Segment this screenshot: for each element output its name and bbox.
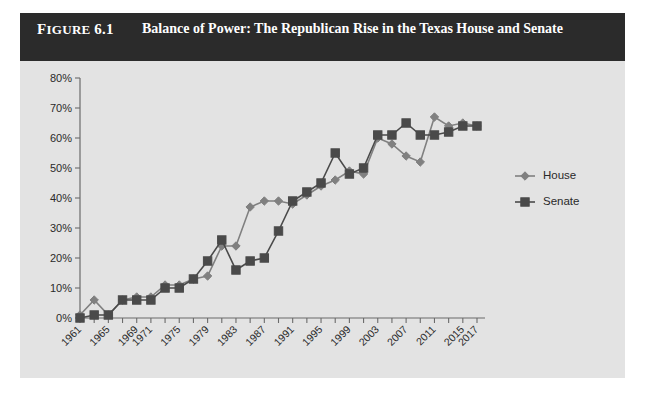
x-tick-label: 1975 bbox=[158, 323, 183, 348]
data-point-senate bbox=[459, 122, 467, 130]
data-point-house bbox=[232, 242, 240, 250]
x-tick-label: 1999 bbox=[328, 323, 353, 348]
y-tick-label: 0% bbox=[56, 312, 72, 324]
data-point-house bbox=[274, 197, 282, 205]
series-line-house bbox=[80, 117, 477, 315]
data-point-senate bbox=[76, 314, 84, 322]
data-point-house bbox=[260, 197, 268, 205]
y-tick-label: 30% bbox=[50, 222, 72, 234]
x-tick-label: 1983 bbox=[214, 323, 239, 348]
series-line-senate bbox=[80, 123, 477, 318]
data-point-senate bbox=[161, 284, 169, 292]
data-point-senate bbox=[203, 257, 211, 265]
data-point-senate bbox=[288, 197, 296, 205]
data-point-senate bbox=[189, 275, 197, 283]
data-point-senate bbox=[147, 296, 155, 304]
y-axis: 0%10%20%30%40%50%60%70%80% bbox=[50, 72, 80, 324]
data-point-house bbox=[430, 113, 438, 121]
data-point-senate bbox=[473, 122, 481, 130]
x-tick-label: 1995 bbox=[299, 323, 324, 348]
y-tick-label: 10% bbox=[50, 282, 72, 294]
data-point-senate bbox=[260, 254, 268, 262]
data-point-senate bbox=[90, 311, 98, 319]
figure-label-igure: IGURE bbox=[46, 22, 90, 37]
x-tick-label: 2003 bbox=[356, 323, 381, 348]
data-point-house bbox=[203, 272, 211, 280]
data-point-senate bbox=[274, 227, 282, 235]
figure-number: 6.1 bbox=[94, 21, 114, 37]
x-axis: 1961196519691971197519791983198719911995… bbox=[58, 318, 485, 348]
page-title: Balance of Power: The Republican Rise in… bbox=[142, 20, 612, 37]
data-point-senate bbox=[232, 266, 240, 274]
line-chart: 0%10%20%30%40%50%60%70%80% 1961196519691… bbox=[28, 68, 617, 370]
data-point-senate bbox=[388, 131, 396, 139]
legend-label-senate: Senate bbox=[543, 195, 579, 207]
data-point-senate bbox=[133, 296, 141, 304]
data-point-house bbox=[416, 158, 424, 166]
y-tick-label: 20% bbox=[50, 252, 72, 264]
data-point-senate bbox=[359, 164, 367, 172]
data-point-senate bbox=[430, 131, 438, 139]
data-point-senate bbox=[303, 188, 311, 196]
figure-title-bar: FIGURE 6.1 Balance of Power: The Republi… bbox=[20, 13, 625, 61]
data-point-senate bbox=[374, 131, 382, 139]
data-point-senate bbox=[317, 179, 325, 187]
data-point-senate bbox=[444, 128, 452, 136]
series-layer bbox=[76, 113, 481, 322]
y-tick-label: 60% bbox=[50, 132, 72, 144]
y-tick-label: 40% bbox=[50, 192, 72, 204]
x-tick-label: 1965 bbox=[87, 323, 112, 348]
data-point-senate bbox=[345, 170, 353, 178]
figure-page: { "figure": { "label_small": "F", "label… bbox=[0, 0, 651, 401]
chart-area: 0%10%20%30%40%50%60%70%80% 1961196519691… bbox=[28, 68, 617, 370]
figure-label: FIGURE 6.1 bbox=[37, 21, 114, 38]
x-tick-label: 2011 bbox=[413, 323, 438, 348]
y-tick-label: 50% bbox=[50, 162, 72, 174]
data-point-senate bbox=[331, 149, 339, 157]
data-point-senate bbox=[246, 257, 254, 265]
chart-legend: HouseSenate bbox=[515, 169, 579, 207]
data-point-senate bbox=[218, 236, 226, 244]
data-point-house bbox=[331, 176, 339, 184]
data-point-senate bbox=[416, 131, 424, 139]
data-point-senate bbox=[402, 119, 410, 127]
legend-label-house: House bbox=[543, 169, 576, 181]
y-tick-label: 70% bbox=[50, 102, 72, 114]
data-point-senate bbox=[118, 296, 126, 304]
data-point-house bbox=[246, 203, 254, 211]
x-tick-label: 1991 bbox=[271, 323, 296, 348]
data-point-senate bbox=[104, 311, 112, 319]
x-tick-label: 1987 bbox=[243, 323, 268, 348]
x-tick-label: 2007 bbox=[385, 323, 410, 348]
x-tick-label: 1961 bbox=[58, 323, 83, 348]
x-tick-label: 1979 bbox=[186, 323, 211, 348]
data-point-senate bbox=[175, 284, 183, 292]
y-tick-label: 80% bbox=[50, 72, 72, 84]
